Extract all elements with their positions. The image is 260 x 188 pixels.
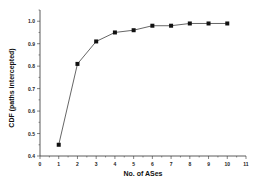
y-tick-label: 1.0 <box>28 18 35 24</box>
data-point-marker <box>207 21 211 25</box>
data-point-marker <box>225 21 229 25</box>
data-point-marker <box>57 143 61 147</box>
x-tick-label: 8 <box>188 161 191 167</box>
y-tick-label: 0.8 <box>28 63 35 69</box>
x-tick-label: 3 <box>95 161 98 167</box>
x-tick-label: 6 <box>151 161 154 167</box>
x-tick-label: 11 <box>243 161 249 167</box>
data-point-marker <box>188 21 192 25</box>
data-point-marker <box>150 24 154 28</box>
y-tick-label: 0.6 <box>28 108 35 114</box>
y-axis-label: CDF (paths intercepted) <box>8 48 16 127</box>
y-tick-label: 0.9 <box>28 41 35 47</box>
data-point-marker <box>94 39 98 43</box>
axes: 012345678910110.40.50.60.70.80.91.0 <box>28 10 249 167</box>
y-tick-label: 0.7 <box>28 86 35 92</box>
data-point-marker <box>75 62 79 66</box>
data-point-marker <box>113 30 117 34</box>
x-tick-label: 2 <box>76 161 79 167</box>
plot-series <box>57 21 230 146</box>
x-tick-label: 10 <box>224 161 230 167</box>
y-tick-label: 0.4 <box>28 153 35 159</box>
x-tick-label: 9 <box>207 161 210 167</box>
cdf-chart: 012345678910110.40.50.60.70.80.91.0 No. … <box>0 0 260 188</box>
x-tick-label: 1 <box>57 161 60 167</box>
x-axis-label: No. of ASes <box>123 170 162 177</box>
series-line <box>59 23 228 144</box>
data-point-marker <box>169 24 173 28</box>
x-tick-label: 7 <box>170 161 173 167</box>
y-tick-label: 0.5 <box>28 131 35 137</box>
data-point-marker <box>132 28 136 32</box>
x-tick-label: 4 <box>114 161 117 167</box>
x-tick-label: 5 <box>132 161 135 167</box>
x-tick-label: 0 <box>39 161 42 167</box>
